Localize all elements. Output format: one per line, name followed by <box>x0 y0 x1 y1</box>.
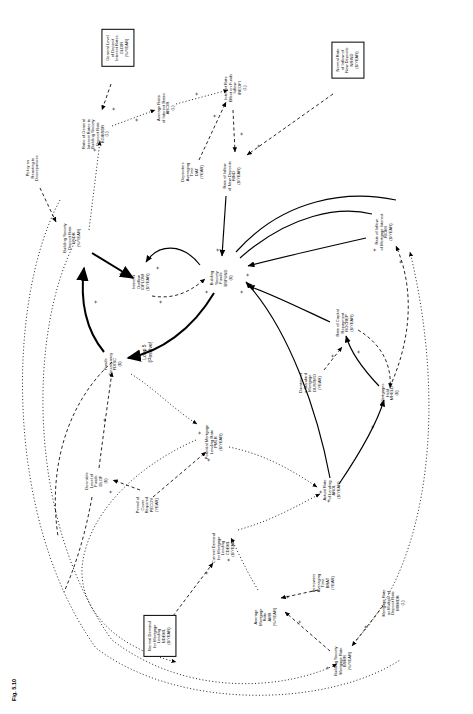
node-nrind[interactable]: Normal Rate of Inflow of New Deposits NR… <box>331 41 364 78</box>
link-mheld-rocrep <box>346 336 379 386</box>
link-mheld-riomi <box>392 246 408 382</box>
node-gldir[interactable]: General Level of Deposit Interest Rates … <box>101 29 134 67</box>
loop-5-label: Loop 5 (Positive) <box>141 342 154 363</box>
sign-fdisc-pmlr: + <box>196 431 202 435</box>
link-bsmr-amr <box>285 612 330 651</box>
sign-pecov-pmlr: + <box>205 458 211 462</box>
link-rocrep-mheld <box>358 330 390 388</box>
link-bsfund-outer-right-2 <box>236 196 396 252</box>
node-dat[interactable]: Depositors Averaging Time DAT (YEAR) <box>181 162 204 182</box>
link-pmlr-arol <box>229 447 317 487</box>
sign-riomi-bsfund: + <box>371 248 377 252</box>
sign-fdisc-bsdr: + <box>92 300 98 304</box>
node-cdeml[interactable]: Current Demand for Mortgage Lending CDEM… <box>212 533 235 563</box>
link-arcir-ireofi <box>176 90 228 104</box>
node-bsdr[interactable]: Building Society Deposit Rate BSDR (%/YE… <box>63 223 82 252</box>
sign-dustmo-rocrep: + <box>329 354 335 358</box>
sign-nrind-rind: + <box>255 144 261 148</box>
sign-pmlr-arol: + <box>317 490 323 494</box>
node-mrmdr[interactable]: Mortgage Rate as Multiple of Deposit Rat… <box>382 589 405 616</box>
link-rind-bsfund <box>222 196 226 256</box>
sign-arol-mheld: + <box>369 425 375 429</box>
sign-bsfund-ioflow: + <box>154 266 160 270</box>
link-bsmr-riomi <box>356 252 429 640</box>
node-brat[interactable]: Borrowers Averaging Time BRAT (YEAR) <box>312 574 335 593</box>
node-ndeml[interactable]: Normal Demand for Mortgage Lending NDEML… <box>143 615 176 657</box>
node-fdisc[interactable]: Funds Discrepancy FDISC ($) <box>104 353 123 376</box>
link-cdeml-arol <box>238 494 320 530</box>
sign-brat-amr: + <box>284 595 290 599</box>
node-bsmr[interactable]: Building Society Mortgage Rate BSMR (%/Y… <box>334 646 353 675</box>
link-policy-bsdr <box>40 188 56 222</box>
sign-bsmr-amr: + <box>296 620 302 624</box>
sign-mrmdr-bsmr: + <box>362 625 368 629</box>
link-bsdr-rgibsdr <box>89 141 100 230</box>
node-pecov[interactable]: Period of Cover Required PECOV (YEAR) <box>136 497 159 514</box>
sign-ndeml-cdeml: + <box>203 571 209 575</box>
sign-rind-bsfund: + <box>214 248 220 252</box>
node-rocrep[interactable]: Rate of Capital Repayment ROCREP ($/YEAR… <box>336 309 355 336</box>
diagram-canvas: General Level of Deposit Interest Rates … <box>0 0 473 714</box>
figure-caption: Fig. 5.10 <box>11 679 17 701</box>
sign-bsfund-fdisc: + <box>203 290 209 294</box>
link-rocrep-bsfund <box>248 286 330 322</box>
node-rgibsdr[interactable]: Ratio of General Interest Rates to Build… <box>82 119 110 149</box>
link-dlof-downstream <box>64 497 92 592</box>
node-arol[interactable]: Actual Rate of Lending AROL ($/YEAR) <box>323 479 342 500</box>
node-amr[interactable]: Average Mortgage Rate AMR (%/YEAR) <box>254 608 277 627</box>
node-pmlr[interactable]: Potential Mortgage Lending Rate PMLR ($/… <box>205 425 224 459</box>
node-bsfund[interactable]: Building Society Funds BSFUND ($) <box>210 270 233 287</box>
node-ioflow[interactable]: Interest Outflow IOFLOW ($/YEAR) <box>132 273 151 290</box>
link-dat-arcir <box>199 102 226 160</box>
sign-mheld-rocrep: + <box>355 350 361 354</box>
sign-ioflow-bsfund: + <box>157 300 163 304</box>
link-ireofi-rind <box>233 110 235 152</box>
sign-ireofi-rind: + <box>238 132 244 136</box>
link-fdisc-bsdr <box>83 268 104 352</box>
sign-arcir-ireofi: + <box>193 92 199 96</box>
sign-dat-arcir: + <box>211 114 217 118</box>
node-mheld[interactable]: Mortgages Held MHELD ($) <box>381 383 400 402</box>
link-bsfund-outer-right <box>240 211 372 258</box>
sign-gldir-rgibsdr: + <box>110 107 116 111</box>
link-bsdr-bsmr <box>43 240 337 684</box>
node-arcir[interactable]: Average Ratio of Interest Rates ARCIR (1… <box>157 93 176 123</box>
link-outer-loop-3 <box>55 362 112 536</box>
node-ireofi[interactable]: Interest Rate Effect on Funds Inflow IRE… <box>224 74 247 103</box>
node-dlof[interactable]: Desirable Level of Funds DLOF ($) <box>85 472 108 489</box>
sign-rocrep-bsfund: + <box>244 273 250 277</box>
node-dustmo[interactable]: Duration of a Standard Mortgage DUSTMO (… <box>299 373 322 393</box>
node-rind[interactable]: Rate of Inflow of New Deposits RIND ($/Y… <box>223 161 242 191</box>
sign-rgibsdr-arcir: + <box>133 118 139 122</box>
link-riomi-bsfund <box>248 238 366 266</box>
link-arol-mheld <box>339 400 384 484</box>
link-bsfund-ioflow <box>146 248 200 265</box>
sign-dlof-fdisc: + <box>101 418 107 422</box>
link-bsdr-ioflow <box>92 253 133 278</box>
sign-mheld-riomi: + <box>397 260 403 264</box>
sign-bsdr-rgibsdr: + <box>91 148 97 152</box>
link-dustmo-rocrep <box>324 347 342 370</box>
link-fdisc-pmlr <box>131 374 197 424</box>
link-ioflow-bsfund <box>152 279 205 297</box>
sign-pecov-dlof: + <box>107 490 113 494</box>
sign-bsdr-bsmr: + <box>324 666 330 670</box>
sign-amr-cdeml: + <box>225 558 231 562</box>
sign-cdeml-arol: + <box>325 499 331 503</box>
node-riomi[interactable]: Rate of Inflow of Mortgage Interest RIOM… <box>375 214 394 251</box>
sign-arol-bsfund: + <box>238 290 244 294</box>
sign-bsdr-ioflow: + <box>117 272 123 276</box>
policy-reacting-discrepancies-label: Policy on Reacting to Discrepancies <box>26 155 40 181</box>
